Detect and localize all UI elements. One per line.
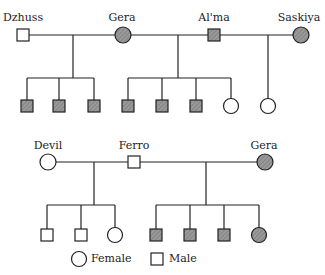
male-affected-symbol [208, 29, 220, 41]
male-unaffected-symbol [128, 156, 140, 168]
female-affected-symbol [293, 27, 309, 43]
legend-male-icon [151, 253, 163, 265]
female-unaffected-symbol [224, 99, 239, 114]
label-dzhuss: Dzhuss [3, 11, 43, 24]
female-affected-symbol [252, 228, 267, 243]
female-unaffected-symbol [261, 99, 276, 114]
female-affected-symbol [257, 154, 273, 170]
pedigree-chart [0, 0, 325, 275]
male-unaffected-symbol [75, 229, 87, 241]
legend-male-label: Male [169, 252, 197, 265]
label-alma: Al'ma [198, 11, 229, 24]
male-unaffected-symbol [17, 29, 29, 41]
female-affected-symbol [115, 27, 131, 43]
label-saskiya: Saskiya [278, 11, 321, 24]
label-ferro: Ferro [119, 139, 150, 152]
male-affected-symbol [184, 229, 196, 241]
male-affected-symbol [150, 229, 162, 241]
male-affected-symbol [156, 100, 168, 112]
male-affected-symbol [53, 100, 65, 112]
male-affected-symbol [88, 100, 100, 112]
male-unaffected-symbol [41, 229, 53, 241]
label-gera-gen2: Gera [250, 139, 277, 152]
female-unaffected-symbol [40, 154, 56, 170]
male-affected-symbol [21, 100, 33, 112]
male-affected-symbol [122, 100, 134, 112]
label-gera-gen1: Gera [108, 11, 135, 24]
female-unaffected-symbol [108, 228, 123, 243]
legend-female-label: Female [91, 252, 132, 265]
male-affected-symbol [190, 100, 202, 112]
label-devil: Devil [34, 139, 63, 152]
legend-female-icon [72, 252, 87, 267]
male-affected-symbol [218, 229, 230, 241]
